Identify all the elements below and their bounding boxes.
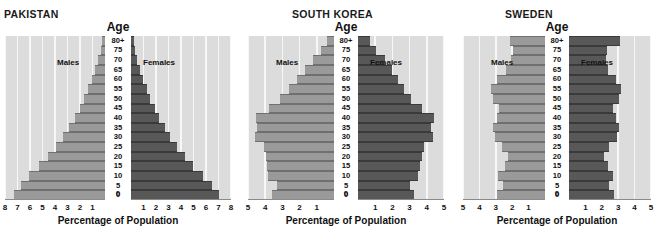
male-bar	[491, 84, 545, 94]
bar-row	[569, 113, 651, 123]
male-bar	[266, 152, 334, 162]
female-bar	[358, 142, 424, 152]
female-bar	[569, 75, 616, 85]
male-bar	[511, 55, 545, 65]
x-tick-label-right: 5	[188, 203, 200, 212]
age-tick-label: 30	[105, 133, 131, 141]
age-tick-label: 25	[545, 143, 569, 151]
male-bar	[503, 181, 545, 191]
age-tick-label: 75	[105, 46, 131, 54]
bar-row	[248, 161, 334, 171]
male-bar	[505, 161, 545, 171]
age-tick-label: 70	[105, 56, 131, 64]
male-bar	[305, 65, 334, 75]
age-tick-label: 55	[545, 85, 569, 93]
bar-row	[248, 152, 334, 162]
age-tick-label: 40	[105, 114, 131, 122]
age-tick-label: 35	[334, 124, 358, 132]
male-bar	[56, 142, 105, 152]
male-bar	[498, 171, 545, 181]
age-tick-label: 15	[545, 162, 569, 170]
age-axis-title: Age	[531, 20, 583, 34]
female-bar	[569, 113, 616, 123]
axis-baseline	[569, 199, 651, 200]
male-bar	[269, 104, 334, 114]
female-bar	[358, 171, 418, 181]
bar-row	[463, 132, 545, 142]
female-bar	[131, 104, 155, 114]
female-bar	[131, 46, 135, 56]
bar-row	[131, 171, 231, 181]
male-bar	[321, 46, 334, 56]
bar-row	[463, 113, 545, 123]
male-bar	[267, 161, 334, 171]
bar-row	[248, 123, 334, 133]
bar-row	[5, 94, 105, 104]
bar-row	[569, 104, 651, 114]
bar-row	[248, 46, 334, 56]
female-bar	[569, 94, 619, 104]
bar-row	[5, 142, 105, 152]
x-tick-label-left: 5	[242, 203, 254, 212]
bar-row	[463, 181, 545, 191]
x-tick-label-left: 3	[276, 203, 288, 212]
male-bar	[21, 181, 105, 191]
female-bar	[569, 161, 608, 171]
female-bar	[358, 181, 410, 191]
age-tick-label: 80+	[545, 37, 569, 45]
age-tick-label: 45	[105, 104, 131, 112]
bar-row	[131, 94, 231, 104]
male-bar	[29, 171, 105, 181]
males-legend-label: Males	[276, 58, 298, 67]
female-bar	[358, 123, 431, 133]
x-tick-label-left: 4	[49, 203, 61, 212]
male-bar	[508, 152, 545, 162]
bar-row	[5, 132, 105, 142]
bar-row	[569, 94, 651, 104]
bar-row	[463, 123, 545, 133]
x-axis-zero-label: 0	[334, 189, 358, 198]
bar-row	[569, 75, 651, 85]
female-bar	[131, 142, 177, 152]
bar-row	[5, 181, 105, 191]
bar-row	[5, 55, 105, 65]
bar-row	[5, 75, 105, 85]
age-axis-title: Age	[91, 20, 145, 34]
x-tick-label-left: 4	[473, 203, 485, 212]
x-tick-label-left: 1	[87, 203, 99, 212]
bar-row	[5, 36, 105, 46]
bar-row	[569, 161, 651, 171]
bar-row	[358, 46, 444, 56]
age-tick-label: 65	[105, 66, 131, 74]
female-bar	[131, 113, 159, 123]
bar-row	[131, 84, 231, 94]
bar-row	[569, 46, 651, 56]
x-tick-label-right: 3	[404, 203, 416, 212]
x-tick-label-right: 7	[213, 203, 225, 212]
female-bar	[358, 152, 422, 162]
bar-row	[248, 36, 334, 46]
female-bar	[569, 171, 613, 181]
x-tick-label-left: 5	[37, 203, 49, 212]
age-tick-label: 65	[545, 66, 569, 74]
male-bar	[280, 94, 334, 104]
x-tick-label-left: 2	[294, 203, 306, 212]
male-bar	[39, 161, 105, 171]
bar-row	[569, 84, 651, 94]
bar-row	[248, 75, 334, 85]
bar-row	[358, 132, 444, 142]
age-tick-label: 30	[545, 133, 569, 141]
male-bar	[289, 84, 334, 94]
bar-row	[5, 161, 105, 171]
bar-row	[248, 181, 334, 191]
female-bar	[131, 55, 137, 65]
age-tick-label: 55	[334, 85, 358, 93]
population-pyramids-figure: PAKISTANAge05101520253035404550556065707…	[0, 0, 667, 240]
bar-row	[463, 75, 545, 85]
bar-row	[5, 65, 105, 75]
age-tick-label: 50	[105, 95, 131, 103]
male-bar	[495, 132, 545, 142]
male-bar	[95, 65, 105, 75]
x-tick-label-right: 3	[163, 203, 175, 212]
x-tick-label-right: 1	[138, 203, 150, 212]
